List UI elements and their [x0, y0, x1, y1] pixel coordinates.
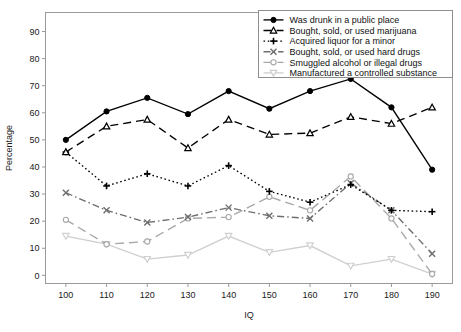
data-point-marker	[348, 174, 353, 179]
series-5	[63, 233, 436, 277]
legend: Was drunk in a public placeBought, sold,…	[259, 11, 453, 79]
data-point-marker	[347, 181, 354, 188]
x-tick-label: 140	[221, 290, 236, 300]
series-0	[63, 76, 435, 172]
x-axis-label: IQ	[244, 310, 254, 320]
data-point-marker	[307, 208, 312, 213]
data-point-marker	[63, 190, 69, 196]
series-line	[66, 79, 432, 170]
data-point-marker	[226, 215, 231, 220]
data-point-marker	[429, 104, 435, 110]
data-point-marker	[271, 60, 276, 65]
data-point-marker	[145, 95, 150, 100]
legend-label: Smuggled alcohol or illegal drugs	[290, 58, 423, 68]
legend-label: Bought, sold, or used hard drugs	[290, 47, 421, 57]
x-tick-label: 150	[262, 290, 277, 300]
data-point-marker	[225, 116, 231, 122]
x-tick-label: 110	[99, 290, 113, 300]
x-tick-label: 130	[180, 290, 195, 300]
data-point-marker	[307, 243, 313, 249]
data-point-marker	[307, 199, 314, 206]
y-tick-label: 90	[29, 27, 39, 37]
x-tick-label: 160	[303, 290, 318, 300]
legend-item[interactable]: Manufactured a controlled substance	[264, 68, 438, 78]
data-point-marker	[307, 130, 313, 136]
y-tick-label: 80	[29, 54, 39, 64]
y-tick-label: 0	[34, 271, 39, 281]
data-point-marker	[430, 271, 435, 276]
data-point-marker	[388, 120, 394, 126]
data-point-marker	[266, 131, 272, 137]
data-point-marker	[348, 114, 354, 120]
series-2	[63, 149, 436, 215]
series-line	[66, 236, 432, 274]
data-point-marker	[144, 170, 151, 177]
series-line	[66, 176, 432, 274]
data-point-marker	[226, 88, 231, 93]
legend-label: Manufactured a controlled substance	[290, 68, 438, 78]
data-point-marker	[348, 263, 354, 269]
data-point-marker	[103, 123, 109, 129]
data-point-marker	[429, 251, 435, 257]
x-tick-label: 120	[140, 290, 155, 300]
data-point-marker	[225, 162, 232, 169]
data-point-marker	[389, 216, 394, 221]
data-point-marker	[266, 188, 273, 195]
data-point-marker	[144, 116, 150, 122]
data-point-marker	[104, 242, 109, 247]
data-point-marker	[185, 112, 190, 117]
legend-label: Bought, sold, or used marijuana	[290, 26, 417, 36]
series-line	[66, 152, 432, 212]
data-point-marker	[430, 167, 435, 172]
y-tick-label: 10	[29, 243, 39, 253]
data-point-marker	[63, 217, 68, 222]
data-point-marker	[63, 149, 69, 155]
data-point-marker	[266, 250, 272, 256]
data-point-marker	[307, 88, 312, 93]
data-point-marker	[429, 208, 436, 215]
series-3	[63, 180, 435, 256]
data-point-marker	[271, 17, 276, 22]
x-tick-label: 170	[343, 290, 358, 300]
x-tick-label: 100	[58, 290, 73, 300]
line-chart: 0102030405060708090100110120130140150160…	[0, 0, 461, 332]
data-point-marker	[185, 183, 192, 190]
data-point-marker	[145, 239, 150, 244]
x-tick-label: 180	[384, 290, 399, 300]
legend-label: Acquired liquor for a minor	[290, 36, 396, 46]
legend-label: Was drunk in a public place	[290, 15, 400, 25]
series-1	[63, 104, 436, 155]
data-point-marker	[144, 256, 150, 262]
y-tick-label: 50	[29, 135, 39, 145]
data-point-marker	[63, 137, 68, 142]
data-point-marker	[63, 233, 69, 239]
chart-container: 0102030405060708090100110120130140150160…	[0, 0, 461, 332]
y-axis-label: Percentage	[4, 125, 14, 171]
y-tick-label: 40	[29, 162, 39, 172]
y-tick-label: 70	[29, 81, 39, 91]
y-tick-label: 20	[29, 216, 39, 226]
data-point-marker	[267, 106, 272, 111]
y-tick-label: 30	[29, 189, 39, 199]
data-point-marker	[103, 183, 110, 190]
data-point-marker	[267, 194, 272, 199]
y-tick-label: 60	[29, 108, 39, 118]
data-point-marker	[388, 256, 394, 262]
data-point-marker	[185, 252, 191, 258]
data-point-marker	[389, 105, 394, 110]
x-tick-label: 190	[425, 290, 440, 300]
series-line	[66, 107, 432, 152]
data-point-marker	[104, 109, 109, 114]
data-point-marker	[225, 233, 231, 239]
